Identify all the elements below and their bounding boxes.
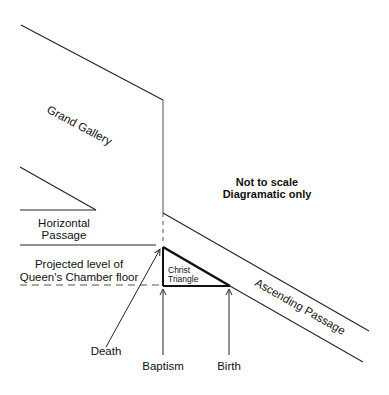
christ-triangle-label-2: Triangle	[168, 274, 199, 284]
ascending-passage-roof-line	[163, 213, 369, 331]
grand-gallery-floor-line	[20, 167, 96, 210]
horizontal-passage-label-1: Horizontal	[38, 217, 90, 229]
grand-gallery-roof-line	[21, 25, 163, 100]
projected-level-label-1: Projected level of	[35, 258, 124, 270]
death-label: Death	[91, 345, 122, 357]
ascending-passage-label: Ascending Passage	[253, 276, 347, 337]
horizontal-passage-label-2: Passage	[42, 229, 87, 241]
grand-gallery-label: Grand Gallery	[45, 103, 114, 147]
diagramatic-only-note: Diagramatic only	[223, 188, 313, 200]
not-to-scale-note: Not to scale	[236, 176, 298, 188]
birth-label: Birth	[217, 360, 241, 372]
pyramid-passage-diagram: Grand Gallery Not to scale Diagramatic o…	[0, 0, 389, 395]
projected-level-label-2: Queen's Chamber floor	[20, 271, 139, 283]
baptism-label: Baptism	[142, 360, 184, 372]
